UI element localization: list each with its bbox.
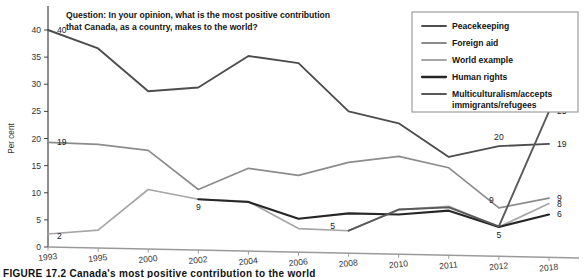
legend: PeacekeepingForeign aidWorld exampleHuma… [412, 12, 578, 112]
legend-label-2: Foreign aid [452, 38, 498, 48]
x-axis-tick-label: 2000 [138, 253, 158, 265]
data-value-label: 5 [497, 230, 502, 240]
legend-label-3: World example [452, 55, 513, 65]
y-axis-tick-label: 35 [31, 52, 41, 62]
x-axis-tick-label: 2004 [238, 255, 258, 267]
data-value-label: 9 [196, 202, 201, 212]
y-axis-tick-label: 15 [31, 161, 41, 171]
x-axis-tick-label: 2011 [439, 259, 459, 271]
y-axis-tick-label: 10 [31, 188, 41, 198]
x-axis-tick-label: 1993 [38, 251, 58, 263]
chart-figure: 0510152025303540Per cent1993199520002002… [0, 0, 585, 278]
series-line-human-rights [198, 199, 549, 227]
line-chart: 0510152025303540Per cent1993199520002002… [0, 0, 585, 278]
y-axis-tick-label: 5 [36, 215, 41, 225]
data-value-label: 20 [494, 132, 504, 142]
series-line-multiculturalism-accepts-immigrants-refugees [349, 111, 549, 230]
y-axis-tick-label: 40 [31, 25, 41, 35]
data-value-label: 2 [57, 231, 62, 241]
series-line-world-example [48, 189, 549, 233]
data-value-label: 5 [330, 221, 335, 231]
y-axis-tick-label: 0 [36, 242, 41, 252]
data-value-label: 8 [557, 199, 562, 209]
data-value-label: 9 [489, 195, 494, 205]
data-value-label: 19 [557, 139, 567, 149]
data-value-label: 19 [57, 137, 67, 147]
y-axis-tick-label: 30 [31, 79, 41, 89]
x-axis-tick-label: 1995 [88, 252, 108, 264]
x-axis-tick-label: 2012 [489, 260, 509, 272]
legend-label-1: Peacekeeping [452, 21, 509, 31]
legend-label-5-line2: immigrants/refugees [452, 100, 537, 110]
y-axis-tick-label: 20 [31, 134, 41, 144]
x-axis-tick-label: 2002 [188, 254, 208, 266]
y-axis-title: Per cent [7, 123, 16, 154]
chart-question-line1: Question: In your opinion, what is the m… [66, 10, 330, 20]
legend-label-4: Human rights [452, 72, 508, 82]
x-axis-tick-label: 2008 [338, 257, 358, 269]
x-axis-tick-label: 2010 [388, 258, 408, 270]
data-value-label: 6 [557, 209, 562, 219]
figure-caption: FIGURE 17.2 Canada's most positive contr… [3, 268, 316, 278]
chart-question-line2: that Canada, as a country, makes to the … [66, 22, 258, 32]
x-axis-tick-label: 2006 [288, 256, 308, 268]
y-axis-tick-label: 25 [31, 106, 41, 116]
x-axis-tick-label: 2018 [539, 261, 559, 273]
legend-label-5: Multiculturalism/accepts [452, 89, 553, 99]
